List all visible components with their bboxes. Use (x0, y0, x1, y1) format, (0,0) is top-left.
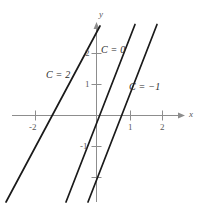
curve-label-c-0: C = 0 (101, 45, 125, 55)
y-axis (92, 22, 102, 202)
x-tick-label-1: 1 (128, 123, 133, 132)
x-axis-label: x (189, 110, 193, 119)
slope-field-solution-curves-figure: x y -2 1 2 2 1 -1 C = 2 C = 0 C = −1 (0, 0, 206, 214)
solution-curves (6, 25, 157, 203)
y-tick-label-1: 1 (85, 80, 90, 89)
y-tick-label--1: -1 (80, 142, 88, 151)
curve-label-c-minus-1: C = −1 (129, 82, 160, 92)
plot-canvas (0, 0, 206, 214)
y-axis-label: y (99, 10, 103, 19)
curve-label-c-2: C = 2 (46, 70, 70, 80)
x-tick-label-2: 2 (160, 123, 165, 132)
y-tick-label-2: 2 (85, 49, 90, 58)
x-tick-label--2: -2 (29, 123, 37, 132)
